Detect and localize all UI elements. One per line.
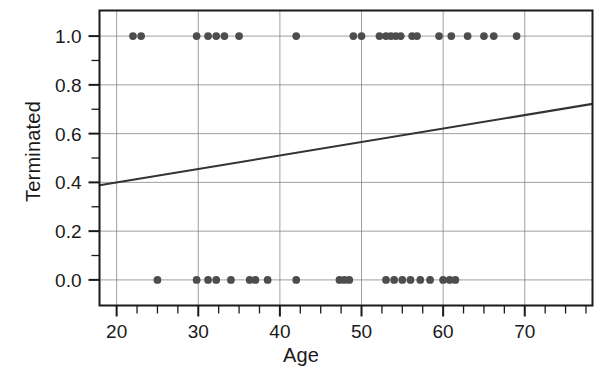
x-axis-label: Age	[0, 344, 602, 367]
data-point	[398, 276, 406, 284]
x-tick-label: 30	[188, 321, 209, 342]
data-point	[212, 32, 220, 40]
data-point	[513, 32, 521, 40]
data-point	[464, 32, 472, 40]
data-point	[345, 276, 353, 284]
data-point	[382, 276, 390, 284]
y-axis-label: Terminated	[22, 101, 45, 202]
data-point	[193, 32, 201, 40]
regression-line	[100, 104, 593, 185]
data-point	[390, 276, 398, 284]
data-point	[397, 32, 405, 40]
data-point	[137, 32, 145, 40]
x-tick-label: 70	[514, 321, 535, 342]
x-tick-label: 50	[351, 321, 372, 342]
data-point	[204, 276, 212, 284]
y-axis-label-wrapper: Terminated	[22, 42, 45, 262]
x-tick-label: 40	[269, 321, 290, 342]
data-point	[129, 32, 137, 40]
data-point	[435, 32, 443, 40]
data-point	[221, 32, 229, 40]
data-point	[252, 276, 260, 284]
data-point	[235, 32, 243, 40]
plot-canvas: 2030405060700.00.20.40.60.81.0	[0, 0, 602, 382]
data-point	[212, 276, 220, 284]
data-point	[358, 32, 366, 40]
data-point	[452, 276, 460, 284]
data-point	[447, 32, 455, 40]
y-tick-label: 0.6	[55, 124, 81, 145]
data-point	[204, 32, 212, 40]
data-point	[292, 276, 300, 284]
data-point	[480, 32, 488, 40]
data-point	[292, 32, 300, 40]
y-tick-label: 0.0	[55, 270, 81, 291]
y-tick-label: 1.0	[55, 26, 81, 47]
data-point	[490, 32, 498, 40]
x-tick-label: 20	[106, 321, 127, 342]
data-point	[416, 276, 424, 284]
data-point	[413, 32, 421, 40]
y-tick-label: 0.8	[55, 75, 81, 96]
data-point	[227, 276, 235, 284]
data-point	[264, 276, 272, 284]
y-tick-label: 0.4	[55, 172, 82, 193]
data-point	[193, 276, 201, 284]
data-point	[349, 32, 357, 40]
data-point	[154, 276, 162, 284]
data-point	[426, 276, 434, 284]
scatter-plot-figure: 2030405060700.00.20.40.60.81.0 Age Termi…	[0, 0, 602, 382]
plot-frame	[100, 11, 593, 306]
x-tick-label: 60	[433, 321, 454, 342]
data-point	[407, 276, 415, 284]
y-tick-label: 0.2	[55, 221, 81, 242]
